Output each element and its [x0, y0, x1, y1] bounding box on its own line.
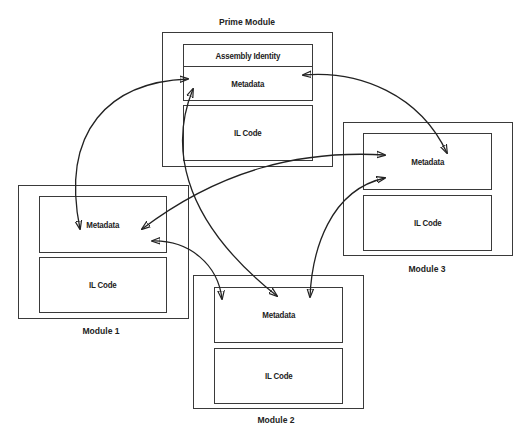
module-1-metadata: Metadata — [39, 196, 167, 253]
module-1-metadata-label: Metadata — [87, 220, 120, 230]
prime-metadata: Metadata — [183, 66, 313, 101]
module-1-il-code-label: IL Code — [89, 280, 117, 290]
prime-assembly-identity: Assembly Identity — [183, 44, 313, 67]
module-2-metadata-label: Metadata — [262, 310, 295, 320]
prime-metadata-label: Metadata — [232, 79, 265, 89]
module-3-caption: Module 3 — [408, 263, 445, 274]
module-1-caption: Module 1 — [82, 325, 119, 336]
module-1-il-code: IL Code — [39, 257, 167, 313]
module-2-caption: Module 2 — [257, 414, 294, 425]
module-3-il-code-label: IL Code — [414, 218, 442, 228]
module-2-il-code: IL Code — [214, 348, 343, 404]
prime-il-code: IL Code — [183, 105, 313, 161]
module-3-metadata-label: Metadata — [411, 157, 444, 167]
module-3-metadata: Metadata — [363, 133, 492, 190]
module-3-il-code: IL Code — [363, 195, 492, 251]
module-2-metadata: Metadata — [214, 287, 343, 343]
prime-module-caption: Prime Module — [219, 16, 275, 27]
prime-il-code-label: IL Code — [234, 128, 262, 138]
prime-assembly-identity-label: Assembly Identity — [216, 51, 281, 61]
module-2-il-code-label: IL Code — [265, 371, 293, 381]
